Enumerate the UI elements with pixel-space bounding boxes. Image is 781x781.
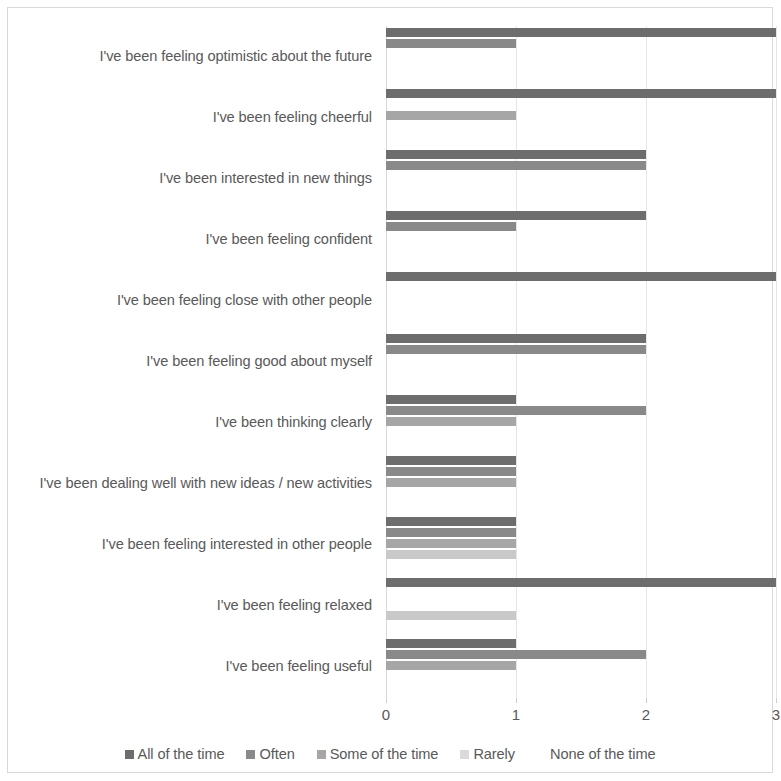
- axis-tick-mark: [646, 698, 647, 703]
- bar: [386, 456, 516, 465]
- category-label: I've been feeling interested in other pe…: [8, 536, 372, 552]
- legend-swatch-icon: [317, 750, 326, 759]
- legend-item[interactable]: Rarely: [460, 746, 515, 762]
- plot-wrapper: I've been feeling optimistic about the f…: [8, 8, 772, 772]
- axis-tick-mark: [776, 698, 777, 703]
- category-label: I've been feeling good about myself: [8, 353, 372, 369]
- bar-group: [386, 272, 776, 325]
- bar: [386, 467, 516, 476]
- category-label: I've been feeling relaxed: [8, 597, 372, 613]
- legend-swatch-icon: [125, 750, 134, 759]
- legend-swatch-icon: [460, 750, 469, 759]
- category-label: I've been feeling close with other peopl…: [8, 292, 372, 308]
- chart-container: I've been feeling optimistic about the f…: [7, 7, 773, 773]
- category-label: I've been thinking clearly: [8, 414, 372, 430]
- legend-item[interactable]: Often: [246, 746, 294, 762]
- legend-label: Some of the time: [330, 746, 439, 762]
- bar-group: [386, 578, 776, 631]
- bar: [386, 539, 516, 548]
- chart-legend: All of the timeOftenSome of the timeRare…: [8, 746, 772, 762]
- bar: [386, 639, 516, 648]
- legend-label: Often: [259, 746, 294, 762]
- bar-group: [386, 150, 776, 203]
- bar: [386, 395, 516, 404]
- bar-group: [386, 89, 776, 142]
- legend-label: All of the time: [138, 746, 225, 762]
- bar: [386, 661, 516, 670]
- category-label: I've been feeling useful: [8, 658, 372, 674]
- bar: [386, 478, 516, 487]
- bar: [386, 89, 776, 98]
- legend-item[interactable]: None of the time: [537, 746, 655, 762]
- axis-tick-mark: [516, 698, 517, 703]
- bar: [386, 406, 646, 415]
- bar-group: [386, 211, 776, 264]
- bar: [386, 611, 516, 620]
- bar: [386, 334, 646, 343]
- bar: [386, 211, 646, 220]
- bar: [386, 345, 646, 354]
- bar: [386, 550, 516, 559]
- bar: [386, 417, 516, 426]
- category-label: I've been feeling confident: [8, 231, 372, 247]
- category-axis: I've been feeling optimistic about the f…: [8, 26, 380, 698]
- bar: [386, 111, 516, 120]
- legend-swatch-icon: [246, 750, 255, 759]
- axis-tick-label: 0: [382, 706, 390, 723]
- legend-label: Rarely: [473, 746, 515, 762]
- category-label: I've been dealing well with new ideas / …: [8, 475, 372, 491]
- bar: [386, 150, 646, 159]
- bar-group: [386, 639, 776, 692]
- bar-group: [386, 517, 776, 570]
- legend-item[interactable]: Some of the time: [317, 746, 439, 762]
- value-axis: 0123: [386, 698, 776, 732]
- axis-tick-label: 1: [512, 706, 520, 723]
- bar: [386, 517, 516, 526]
- bar-group: [386, 28, 776, 81]
- category-label: I've been feeling optimistic about the f…: [8, 48, 372, 64]
- bar: [386, 528, 516, 537]
- category-label: I've been interested in new things: [8, 170, 372, 186]
- gridline: [776, 26, 777, 698]
- bar: [386, 272, 776, 281]
- axis-tick-label: 2: [642, 706, 650, 723]
- bar: [386, 578, 776, 587]
- bar: [386, 161, 646, 170]
- legend-item[interactable]: All of the time: [125, 746, 225, 762]
- bar: [386, 28, 776, 37]
- axis-tick-label: 3: [772, 706, 780, 723]
- axis-tick-mark: [386, 698, 387, 703]
- bar: [386, 650, 646, 659]
- bar-group: [386, 456, 776, 509]
- category-label: I've been feeling cheerful: [8, 109, 372, 125]
- bar: [386, 39, 516, 48]
- bar: [386, 222, 516, 231]
- bar-group: [386, 395, 776, 448]
- bar-group: [386, 334, 776, 387]
- plot-area: [386, 26, 776, 698]
- legend-label: None of the time: [550, 746, 655, 762]
